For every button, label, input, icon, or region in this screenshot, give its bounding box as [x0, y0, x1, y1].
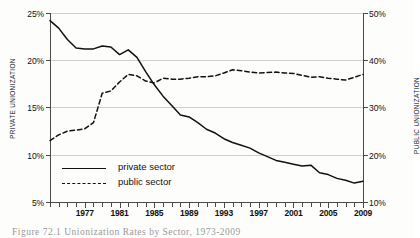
x-axis-tick-1988: [180, 203, 181, 207]
right-ytick-label-50: 50%: [369, 9, 386, 19]
x-axis-tick-2007: [346, 203, 347, 207]
legend-swatch-dashed-line-icon: [62, 183, 106, 184]
x-axis-tick-1982: [128, 203, 129, 207]
left-ytick-label-10: 10%: [2, 151, 44, 161]
x-axis-label-1977: 1977: [76, 208, 94, 218]
right-ytick-label-10: 10%: [369, 198, 386, 208]
x-axis-tick-1996: [250, 203, 251, 207]
x-axis-tick-1979: [102, 203, 103, 207]
x-axis-tick-1973: [50, 203, 51, 207]
x-axis-tick-1980: [111, 203, 112, 207]
left-ytick-label-5: 5%: [2, 198, 44, 208]
x-axis-tick-1990: [198, 203, 199, 207]
x-axis-tick-1991: [207, 203, 208, 207]
x-axis-tick-2003: [311, 203, 312, 207]
right-ytick-label-20: 20%: [369, 151, 386, 161]
legend-label-public-sector: public sector: [118, 176, 171, 187]
x-axis-label-1993: 1993: [215, 208, 233, 218]
legend-swatch-solid-line-icon: [62, 168, 106, 169]
chart-legend: private sector public sector: [62, 161, 212, 191]
x-axis-tick-1992: [215, 203, 216, 207]
right-ytick-10: [364, 202, 368, 203]
right-ytick-20: [364, 155, 368, 156]
right-ytick-40: [364, 60, 368, 61]
x-axis-tick-1983: [137, 203, 138, 207]
x-axis-label-1989: 1989: [180, 208, 198, 218]
legend-label-private-sector: private sector: [118, 161, 175, 172]
right-axis-title: PUBLIC UNIONIZATION: [413, 77, 420, 154]
x-axis-tick-2002: [302, 203, 303, 207]
x-axis-tick-1976: [76, 203, 77, 207]
x-axis-tick-1974: [59, 203, 60, 207]
x-axis-tick-1978: [93, 203, 94, 207]
right-ytick-label-40: 40%: [369, 56, 386, 66]
x-axis-tick-1975: [67, 203, 68, 207]
x-axis-tick-1984: [146, 203, 147, 207]
x-axis-tick-1986: [163, 203, 164, 207]
legend-item-public-sector: public sector: [62, 176, 212, 191]
x-axis-tick-2008: [354, 203, 355, 207]
x-axis-tick-2000: [285, 203, 286, 207]
x-axis-tick-1995: [241, 203, 242, 207]
x-axis-label-1985: 1985: [145, 208, 163, 218]
x-axis-label-1981: 1981: [110, 208, 128, 218]
right-ytick-30: [364, 107, 368, 108]
right-ytick-label-30: 30%: [369, 103, 386, 113]
right-axis-spine: [363, 13, 364, 203]
series-line-private-sector: [50, 21, 363, 184]
x-axis-tick-2004: [320, 203, 321, 207]
right-ytick-50: [364, 13, 368, 14]
x-axis-label-2005: 2005: [319, 208, 337, 218]
left-ytick-label-25: 25%: [2, 9, 44, 19]
legend-item-private-sector: private sector: [62, 161, 212, 176]
x-axis-tick-1998: [267, 203, 268, 207]
x-axis-tick-1999: [276, 203, 277, 207]
x-axis-tick-2006: [337, 203, 338, 207]
x-axis-label-2009: 2009: [354, 208, 372, 218]
figure-caption: Figure 72.1 Unionization Rates by Sector…: [12, 227, 241, 237]
x-axis-label-2001: 2001: [284, 208, 302, 218]
left-axis-title: PRIVATE UNIONIZATION: [9, 58, 16, 139]
x-axis-tick-1987: [172, 203, 173, 207]
x-axis-tick-1994: [233, 203, 234, 207]
x-axis-label-1997: 1997: [250, 208, 268, 218]
